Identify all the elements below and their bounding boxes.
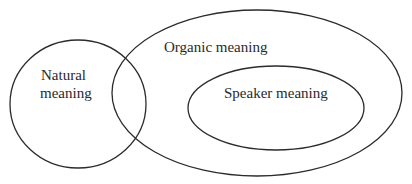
organic-meaning-label: Organic meaning [164,38,267,57]
natural-meaning-circle [10,40,146,168]
natural-meaning-label-line2: meaning [40,84,92,103]
speaker-meaning-ellipse [188,66,364,150]
speaker-meaning-label: Speaker meaning [224,84,328,103]
natural-meaning-label-line1: Natural [41,66,86,85]
